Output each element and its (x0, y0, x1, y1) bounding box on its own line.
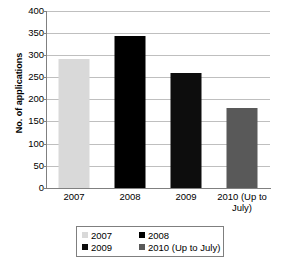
chart-legend: 2007 2008 2009 2010 (Up to July) (76, 226, 224, 257)
bar-2009[interactable] (171, 73, 202, 188)
legend-item-2008[interactable]: 2008 (139, 229, 219, 241)
legend-item-2009[interactable]: 2009 (82, 241, 139, 253)
y-tick-label: 100 (2, 139, 44, 148)
x-tick-label-line: 2007 (46, 191, 102, 202)
x-tick-label-line: 2009 (158, 191, 214, 202)
legend-label: 2010 (Up to July) (148, 242, 220, 253)
bar-slot (46, 11, 102, 188)
x-axis-labels: 2007 2008 2009 2010 (Up to July) (46, 191, 270, 221)
x-tick-label-2008: 2008 (102, 191, 158, 202)
x-tick-label-2009: 2009 (158, 191, 214, 202)
y-tick-label: 350 (2, 28, 44, 37)
legend-item-2010[interactable]: 2010 (Up to July) (139, 241, 219, 253)
x-tick-label-line: 2008 (102, 191, 158, 202)
bar-slot (102, 11, 158, 188)
bars-layer (46, 11, 270, 188)
x-tick-label-line: July) (212, 202, 272, 213)
legend-swatch-icon (82, 244, 88, 250)
y-tick-label: 400 (2, 6, 44, 15)
legend-label: 2009 (91, 242, 112, 253)
bar-slot (158, 11, 214, 188)
x-tick-label-line: 2010 (Up to (212, 191, 272, 202)
bar-slot (214, 11, 270, 188)
bar-2010[interactable] (227, 108, 258, 188)
y-tick-label: 250 (2, 72, 44, 81)
x-tick-label-2007: 2007 (46, 191, 102, 202)
legend-swatch-icon (82, 232, 88, 238)
x-axis-line (46, 188, 271, 189)
legend-swatch-icon (139, 232, 145, 238)
x-tick-label-2010: 2010 (Up to July) (212, 191, 272, 213)
y-tick-label: 150 (2, 116, 44, 125)
y-tick-label: 50 (2, 161, 44, 170)
y-tick-label: 200 (2, 94, 44, 103)
legend-label: 2007 (91, 230, 112, 241)
y-tick-label: 300 (2, 50, 44, 59)
legend-swatch-icon (139, 244, 145, 250)
y-axis-ticks: 400 350 300 250 200 150 100 50 0 (0, 0, 44, 264)
legend-label: 2008 (148, 230, 169, 241)
bar-chart: No. of applications 400 350 300 250 200 … (0, 0, 292, 264)
bar-2007[interactable] (59, 59, 90, 188)
y-tick-label: 0 (2, 183, 44, 192)
bar-2008[interactable] (115, 36, 146, 188)
legend-item-2007[interactable]: 2007 (82, 229, 139, 241)
